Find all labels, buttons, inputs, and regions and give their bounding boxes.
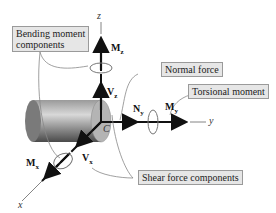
bending-moment-label: Bending moment components bbox=[12, 26, 89, 52]
cylinder-beam bbox=[25, 100, 111, 142]
x-axis-label: x bbox=[18, 199, 22, 210]
normal-force-label: Normal force bbox=[161, 62, 223, 77]
bending-line-2: components bbox=[16, 39, 85, 50]
torsional-moment-label: Torsional moment bbox=[188, 84, 269, 99]
symbol-Mz: Mz bbox=[111, 42, 124, 56]
shear-force-label: Shear force components bbox=[138, 170, 243, 185]
y-axis-label: y bbox=[209, 115, 213, 126]
symbol-Mx: Mx bbox=[26, 157, 39, 171]
centroid-label: C bbox=[103, 123, 110, 134]
symbol-Vx: Vx bbox=[82, 152, 93, 166]
internal-forces-diagram: Bending moment components Normal force T… bbox=[0, 0, 276, 213]
symbol-Vz: Vz bbox=[107, 86, 117, 100]
symbol-My: My bbox=[165, 101, 178, 115]
bending-line-1: Bending moment bbox=[16, 28, 85, 39]
symbol-Ny: Ny bbox=[133, 103, 144, 117]
z-axis-label: z bbox=[97, 10, 101, 21]
y-axis bbox=[101, 110, 206, 134]
